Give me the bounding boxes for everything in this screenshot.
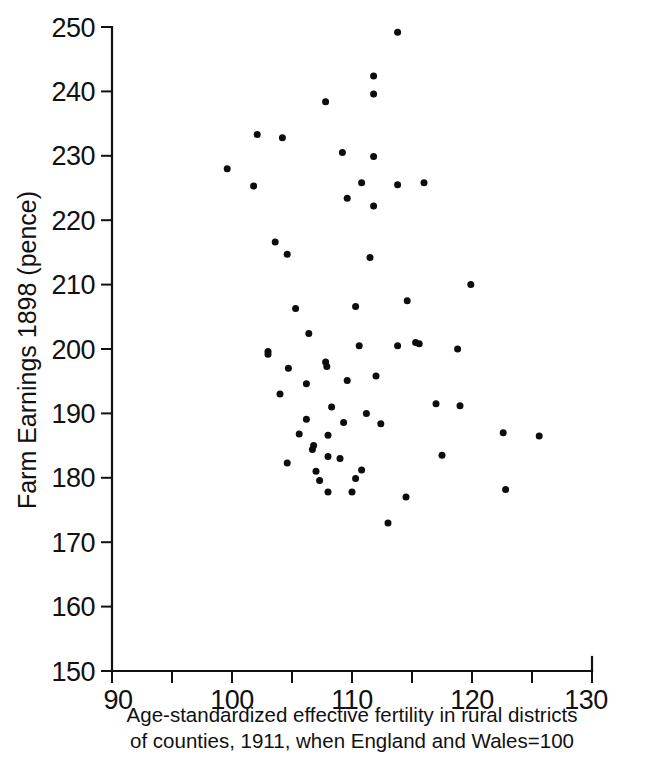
scatter-point: [536, 432, 543, 439]
scatter-point: [296, 431, 303, 438]
y-tick-label: 210: [51, 270, 95, 300]
scatter-point: [370, 203, 377, 210]
scatter-point: [352, 475, 359, 482]
y-tick-label: 220: [51, 206, 95, 236]
y-tick-label: 200: [51, 335, 95, 365]
scatter-point: [439, 452, 446, 459]
scatter-point: [254, 131, 261, 138]
scatter-point: [356, 342, 363, 349]
scatter-point: [502, 486, 509, 493]
scatter-point: [370, 72, 377, 79]
scatter-point: [337, 455, 344, 462]
scatter-point: [367, 254, 374, 261]
scatter-point: [358, 467, 365, 474]
scatter-point: [377, 420, 384, 427]
y-tick-label: 170: [51, 528, 95, 558]
scatter-point: [394, 181, 401, 188]
scatter-point: [370, 153, 377, 160]
scatter-point: [328, 403, 335, 410]
scatter-point: [316, 477, 323, 484]
scatter-point: [279, 134, 286, 141]
x-axis-caption-line1: Age-standardized effective fertility in …: [127, 703, 578, 726]
y-tick-label: 250: [51, 13, 95, 43]
scatter-point: [322, 98, 329, 105]
scatter-point: [325, 488, 332, 495]
scatter-point: [339, 149, 346, 156]
scatter-point: [404, 297, 411, 304]
scatter-point: [467, 281, 474, 288]
scatter-point: [457, 402, 464, 409]
scatter-point: [340, 419, 347, 426]
scatter-point: [309, 446, 316, 453]
y-tick-label: 240: [51, 77, 95, 107]
scatter-point: [394, 342, 401, 349]
x-axis-caption-line2: of counties, 1911, when England and Wale…: [130, 729, 574, 752]
y-tick-label: 150: [51, 657, 95, 687]
scatter-point: [344, 195, 351, 202]
y-axis-label: Farm Earnings 1898 (pence): [13, 191, 41, 509]
y-tick-label: 190: [51, 399, 95, 429]
scatter-point: [313, 468, 320, 475]
scatter-point: [403, 494, 410, 501]
scatter-point: [277, 391, 284, 398]
y-tick-label: 180: [51, 463, 95, 493]
scatter-point: [385, 519, 392, 526]
data-points: [224, 29, 543, 527]
scatter-point: [292, 305, 299, 312]
scatter-point: [373, 373, 380, 380]
scatter-point: [285, 365, 292, 372]
scatter-point: [272, 239, 279, 246]
scatter-point: [250, 183, 257, 190]
y-axis-ticks: [101, 27, 112, 671]
scatter-point: [325, 432, 332, 439]
scatter-point: [305, 330, 312, 337]
scatter-point: [500, 429, 507, 436]
scatter-point: [303, 380, 310, 387]
scatter-point: [421, 179, 428, 186]
scatter-point: [224, 165, 231, 172]
scatter-point: [416, 340, 423, 347]
scatter-point: [303, 416, 310, 423]
scatter-point: [344, 377, 351, 384]
scatter-point: [352, 303, 359, 310]
scatter-point: [394, 29, 401, 36]
x-axis-ticks: [112, 671, 592, 683]
y-axis-tick-labels: 150160170180190200210220230240250: [51, 13, 95, 687]
scatter-point: [265, 351, 272, 358]
scatter-point: [349, 488, 356, 495]
plot-canvas: 150160170180190200210220230240250 901001…: [0, 0, 648, 771]
scatter-plot-figure: 150160170180190200210220230240250 901001…: [0, 0, 648, 771]
scatter-point: [323, 363, 330, 370]
y-tick-label: 160: [51, 592, 95, 622]
scatter-point: [284, 251, 291, 258]
scatter-point: [325, 453, 332, 460]
scatter-point: [370, 90, 377, 97]
scatter-point: [454, 346, 461, 353]
scatter-point: [284, 459, 291, 466]
y-tick-label: 230: [51, 141, 95, 171]
scatter-point: [433, 400, 440, 407]
scatter-point: [358, 179, 365, 186]
scatter-point: [363, 410, 370, 417]
